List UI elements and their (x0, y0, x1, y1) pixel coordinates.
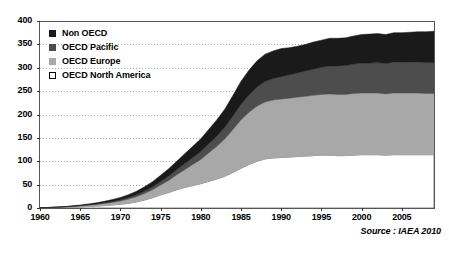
x-axis-tick-label: 1990 (261, 212, 301, 222)
y-axis-tick-label: 0 (2, 202, 32, 212)
y-axis-tick-label: 350 (2, 38, 32, 48)
x-axis-tick-label: 1960 (20, 212, 60, 222)
legend-item: OECD Pacific (49, 40, 150, 54)
nuclear-capacity-stacked-area-chart: 050100150200250300350400 196019651970197… (0, 0, 449, 255)
legend-swatch-icon (49, 72, 56, 79)
y-axis-tick-label: 400 (2, 15, 32, 25)
legend-item-label: OECD Europe (62, 56, 120, 66)
x-axis-tick-label: 1975 (141, 212, 181, 222)
legend-swatch-icon (49, 30, 56, 37)
source-note: Source : IAEA 2010 (361, 226, 441, 236)
legend-swatch-icon (49, 58, 56, 65)
legend-item-label: OECD Pacific (62, 42, 118, 52)
x-axis-tick-label: 2000 (342, 212, 382, 222)
y-axis-tick-label: 150 (2, 132, 32, 142)
y-axis-tick-label: 200 (2, 109, 32, 119)
y-axis-tick-label: 250 (2, 85, 32, 95)
legend-item-label: Non OECD (62, 28, 107, 38)
legend-item: OECD North America (49, 68, 150, 82)
y-axis-tick-label: 50 (2, 179, 32, 189)
x-axis-tick-label: 1970 (100, 212, 140, 222)
x-axis-tick-label: 1965 (60, 212, 100, 222)
x-axis-tick-label: 2005 (382, 212, 422, 222)
x-axis-tick-label: 1985 (221, 212, 261, 222)
x-axis-tick-label: 1980 (181, 212, 221, 222)
legend-item: Non OECD (49, 26, 150, 40)
y-axis-tick-label: 300 (2, 62, 32, 72)
chart-legend: Non OECDOECD PacificOECD EuropeOECD Nort… (49, 26, 150, 82)
legend-item: OECD Europe (49, 54, 150, 68)
legend-swatch-icon (49, 44, 56, 51)
y-axis-tick-label: 100 (2, 155, 32, 165)
x-axis-tick-label: 1995 (301, 212, 341, 222)
legend-item-label: OECD North America (62, 70, 150, 80)
